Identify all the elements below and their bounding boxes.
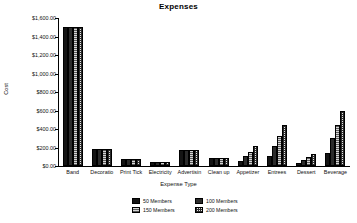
legend-swatch-icon — [132, 207, 140, 213]
bar — [136, 159, 141, 166]
bar — [311, 154, 316, 166]
y-axis-tick-labels: $0.00$200.00$400.00$600.00$800.00$1,000.… — [6, 0, 56, 223]
legend-label: 150 Members — [143, 207, 175, 213]
bar — [282, 125, 287, 166]
x-axis-tick-label: Print Tick — [120, 169, 142, 175]
expenses-bar-chart: Expenses Cost $0.00$200.00$400.00$600.00… — [0, 0, 357, 223]
y-axis-tick-label: $0.00 — [43, 163, 57, 169]
bar — [165, 162, 170, 166]
x-axis-tick-label: Entrees — [268, 169, 287, 175]
legend-swatch-icon — [195, 198, 203, 204]
legend-item: 150 Members — [132, 206, 190, 214]
bar — [107, 149, 112, 166]
x-axis-tick-label: Beverage — [324, 169, 347, 175]
x-axis-tick-label: Electricity — [149, 169, 172, 175]
bar — [253, 146, 258, 166]
legend-label: 200 Members — [206, 207, 238, 213]
bar — [78, 27, 83, 166]
y-axis-tick-label: $200.00 — [37, 145, 57, 151]
legend-label: 50 Members — [143, 198, 172, 204]
bar — [194, 150, 199, 166]
chart-legend: 50 Members100 Members150 Members200 Memb… — [132, 197, 257, 214]
y-axis-tick-label: $400.00 — [37, 126, 57, 132]
legend-label: 100 Members — [206, 198, 238, 204]
x-axis-tick-label: Appetizer — [236, 169, 259, 175]
plot-area — [58, 18, 350, 166]
y-axis-tick-label: $1,000.00 — [32, 71, 56, 77]
bar — [340, 111, 345, 166]
legend-item: 200 Members — [195, 206, 257, 214]
y-axis-tick-label: $1,200.00 — [32, 52, 56, 58]
x-axis-title: Expense Type — [0, 181, 357, 187]
x-axis-tick-label: Advertisin — [178, 169, 202, 175]
legend-item: 50 Members — [132, 197, 190, 205]
legend-swatch-icon — [132, 198, 140, 204]
legend-item: 100 Members — [195, 197, 257, 205]
y-axis-tick-label: $600.00 — [37, 108, 57, 114]
legend-swatch-icon — [195, 207, 203, 213]
x-axis-tick-label: Clean up — [208, 169, 230, 175]
x-axis-tick-label: Decoratio — [90, 169, 113, 175]
y-axis-tick-label: $1,600.00 — [32, 15, 56, 21]
x-axis-tick-label: Band — [66, 169, 79, 175]
bar — [224, 158, 229, 166]
x-axis-tick-label: Dessert — [297, 169, 316, 175]
x-axis-line — [58, 166, 350, 167]
y-axis-tick-label: $800.00 — [37, 89, 57, 95]
y-axis-tick-label: $1,400.00 — [32, 34, 56, 40]
